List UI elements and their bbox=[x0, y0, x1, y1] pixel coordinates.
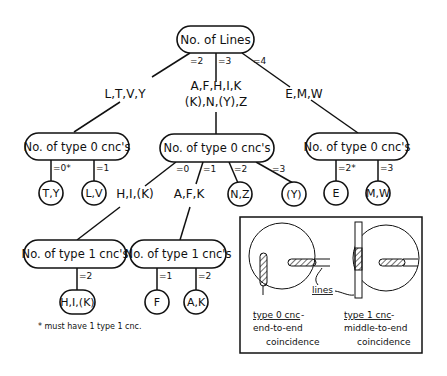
type0-title: type 0 cnc bbox=[253, 310, 300, 320]
edge-t0m-1 bbox=[196, 162, 203, 184]
group-mid-line2: (K),N,(Y),Z bbox=[185, 95, 248, 109]
edge-label-t0l-0: =0* bbox=[53, 163, 71, 173]
leaf-ak: A,K bbox=[187, 296, 206, 309]
edge-root-2 bbox=[152, 53, 190, 77]
legend-box: lines type 0 cnc - end-to-end coincidenc… bbox=[240, 217, 422, 353]
leaf-lv: L,V bbox=[85, 187, 103, 200]
lines-label: lines bbox=[312, 285, 333, 295]
type1-left-node: No. of type 1 cnc's bbox=[22, 240, 129, 268]
edge-label-root-2: =2 bbox=[190, 56, 203, 66]
leaf-f: F bbox=[154, 296, 160, 309]
type0-dash: - bbox=[301, 310, 304, 320]
edge-label-t1r-2: =2 bbox=[198, 271, 211, 281]
type1-left-label: No. of type 1 cnc's bbox=[22, 247, 129, 261]
group-mid-line1: A,F,H,I,K bbox=[191, 79, 243, 93]
type0-leaves: T,Y L,V N,Z (Y) E M,W bbox=[39, 181, 390, 206]
group-left: L,T,V,Y bbox=[105, 87, 147, 101]
edge-left-to-type0 bbox=[74, 102, 120, 132]
type1-right-label: No. of type 1 cnc's bbox=[125, 247, 232, 261]
subgroup-hik: H,I,(K) bbox=[116, 187, 153, 201]
type1-desc2: coincidence bbox=[357, 337, 411, 347]
edge-g1-to-type1 bbox=[180, 207, 190, 240]
edge-label-root-4: =4 bbox=[253, 56, 267, 66]
leaf-e: E bbox=[333, 187, 340, 200]
type0-mid-node: No. of type 0 cnc's bbox=[160, 134, 274, 162]
edge-label-t0r-2: =2* bbox=[338, 163, 356, 173]
type1-desc1: middle-to-end bbox=[344, 323, 407, 333]
edge-label-t1r-1: =1 bbox=[159, 271, 172, 281]
edge-t0m-0 bbox=[145, 162, 176, 186]
group-labels: L,T,V,Y A,F,H,I,K (K),N,(Y),Z E,M,W bbox=[105, 79, 323, 109]
root-node: No. of Lines bbox=[177, 26, 254, 53]
edge-label-t0m-2: =2 bbox=[234, 164, 247, 174]
type0-right-label: No. of type 0 cnc's bbox=[304, 140, 411, 154]
edge-label-t0r-3: =3 bbox=[380, 163, 393, 173]
edge-label-t0l-1: =1 bbox=[96, 163, 109, 173]
leaf-ty: T,Y bbox=[42, 187, 60, 200]
edge-label-t1l-2: =2 bbox=[79, 271, 92, 281]
type0-left-node: No. of type 0 cnc's bbox=[24, 133, 131, 160]
edge-label-t0m-3: =3 bbox=[272, 164, 285, 174]
subgroup-afk: A,F,K bbox=[174, 187, 206, 201]
decision-tree-diagram: =2 =3 =4 =0* =1 =0 =1 =2 =3 =2* =3 =2 =1… bbox=[0, 0, 447, 376]
root-label: No. of Lines bbox=[180, 33, 250, 47]
type0-desc2: coincidence bbox=[266, 337, 320, 347]
edge-label-t0m-0: =0 bbox=[176, 164, 190, 174]
footnote: * must have 1 type 1 cnc. bbox=[38, 322, 142, 331]
type0-mid-label: No. of type 0 cnc's bbox=[164, 141, 271, 155]
type0-left-label: No. of type 0 cnc's bbox=[24, 140, 131, 154]
edge-label-root-3: =3 bbox=[218, 56, 231, 66]
type1-leaves: H,I,(K) F A,K bbox=[60, 290, 208, 314]
group-right: E,M,W bbox=[285, 87, 323, 101]
leaf-y: (Y) bbox=[286, 188, 301, 201]
leaf-hik: H,I,(K) bbox=[60, 296, 94, 309]
type1-title: type 1 cnc bbox=[344, 310, 391, 320]
mid-subgroup-labels: H,I,(K) A,F,K bbox=[116, 187, 205, 201]
type1-dash: - bbox=[391, 310, 394, 320]
type0-right-node: No. of type 0 cnc's bbox=[304, 133, 411, 160]
edge-g0-to-type1 bbox=[77, 207, 120, 240]
edge-label-t0m-1: =1 bbox=[203, 164, 216, 174]
leaf-nz: N,Z bbox=[230, 188, 250, 201]
leaf-mw: M,W bbox=[366, 187, 390, 200]
edge-right-to-type0 bbox=[311, 100, 358, 133]
type0-desc1: end-to-end bbox=[253, 323, 303, 333]
type1-right-node: No. of type 1 cnc's bbox=[125, 240, 232, 268]
